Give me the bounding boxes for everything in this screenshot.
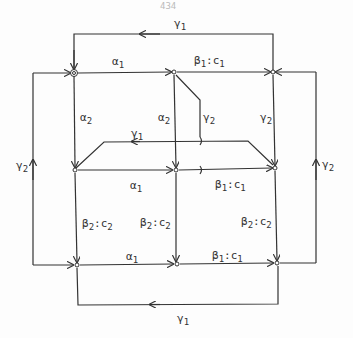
edge-top-loop (74, 34, 273, 72)
label-top-beta: β1:c1 (194, 55, 225, 69)
label-top-alpha: α1 (112, 56, 124, 70)
label-bot-alpha1: α1 (126, 251, 138, 265)
label-top-loop: γ1 (174, 18, 186, 32)
label-left-beta2: β2:c2 (82, 218, 113, 232)
label-right-gamma2: γ2 (260, 112, 272, 126)
label-left-outer-gamma2: γ2 (16, 160, 28, 174)
label-mid-gamma2: γ2 (203, 112, 215, 126)
label-bot-beta1: β1:c1 (212, 250, 243, 264)
label-mid-gamma1: γ1 (131, 128, 143, 142)
label-bottom-loop: γ1 (177, 313, 189, 327)
label-mid-alpha2: α2 (158, 112, 170, 126)
label-mid-beta1: β1:c1 (215, 179, 246, 193)
label-right-outer-gamma2: γ2 (322, 159, 334, 173)
label-left-alpha2: α2 (80, 112, 92, 126)
label-right-beta2: β2:c2 (241, 216, 272, 230)
transition-diagram (0, 0, 353, 338)
label-mid-beta2: β2:c2 (140, 217, 171, 231)
label-mid-alpha1: α1 (130, 180, 142, 194)
